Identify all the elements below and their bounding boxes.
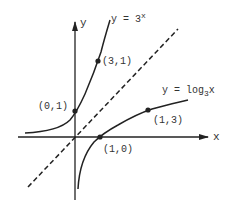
point-1-0	[97, 134, 102, 139]
exponential-curve	[25, 20, 110, 133]
point-label-0-1: (0,1)	[38, 101, 68, 112]
point-1-3	[145, 107, 150, 112]
exponential-label-prefix: y = 3	[111, 14, 141, 25]
logarithm-label-prefix: y = log	[162, 85, 204, 96]
exponential-label-sup: x	[141, 11, 146, 20]
logarithm-curve-label: y = log3x	[162, 85, 215, 98]
point-label-1-0: (1,0)	[103, 144, 133, 155]
point-3-1	[95, 58, 100, 63]
x-axis-label: x	[213, 131, 220, 143]
y-axis-label: y	[80, 17, 87, 29]
point-0-1	[72, 108, 77, 113]
exponential-curve-label: y = 3x	[111, 11, 146, 25]
logarithm-label-suffix: x	[209, 85, 215, 96]
point-label-3-1: (3,1)	[102, 56, 132, 67]
point-label-1-3: (1,3)	[153, 115, 183, 126]
function-graph: x y (0,1) (3,1) (1,0) (1,3) y = 3x y = l…	[0, 0, 237, 202]
